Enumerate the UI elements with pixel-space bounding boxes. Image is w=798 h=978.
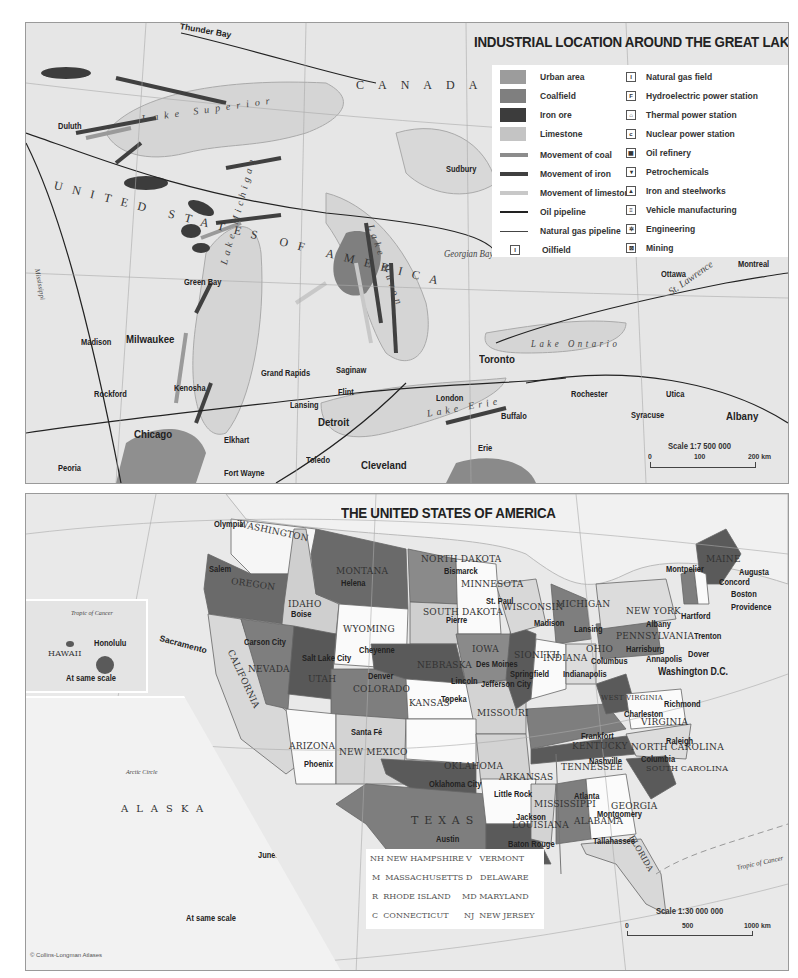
abbr-nh: NH NEW HAMPSHIRE [370, 854, 464, 863]
capital-indianapolis: Indianapolis [563, 669, 607, 679]
abbr-nj: NJ NEW JERSEY [464, 911, 535, 920]
usa-map: THE UNITED STATES OF AMERICA WASHINGTON … [25, 493, 789, 971]
city-syracuse: Syracuse [631, 410, 664, 420]
city-utica: Utica [666, 389, 684, 399]
state-oklahoma: OKLAHOMA [444, 761, 503, 771]
capital-augusta: Augusta [739, 567, 769, 577]
iron-ore-swatch [500, 108, 526, 122]
capital-olympia: Olympia [214, 519, 244, 529]
legend-hydroelectric: FHydroelectric power station [626, 91, 758, 101]
capital-jefferson-city: Jefferson City [481, 679, 531, 689]
capital-topeka: Topeka [441, 694, 467, 704]
capital-trenton: Trenton [694, 631, 721, 641]
state-ohio: OHIO [586, 644, 613, 654]
capital-salt-lake-city: Salt Lake City [302, 653, 351, 663]
city-erie: Erie [478, 443, 492, 453]
copyright-notice: © Collins-Longman Atlases [30, 952, 102, 958]
hydroelectric-icon: F [626, 91, 636, 101]
coalfield-swatch [500, 89, 526, 103]
legend-movement-limestone: Movement of limestone [500, 188, 634, 198]
state-indiana: INDIANA [543, 653, 587, 663]
oilfield-icon: I [510, 245, 520, 255]
thermal-power-icon: ⌂ [626, 110, 636, 120]
petrochemicals-icon: ▾ [626, 167, 636, 177]
capital-austin: Austin [436, 834, 459, 844]
legend-movement-coal: Movement of coal [500, 150, 612, 160]
legend-vehicle-manufacturing: ≡Vehicle manufacturing [626, 205, 737, 215]
arctic-circle-label: Arctic Circle [126, 768, 158, 776]
capital-denver: Denver [368, 671, 393, 681]
abbr-v: V VERMONT [466, 854, 524, 863]
oil-refinery-icon: ▦ [626, 148, 636, 158]
capital-carson-city: Carson City [244, 637, 286, 647]
mining-icon: ⊠ [626, 243, 636, 253]
gl-scale-tick-200: 200 km [748, 452, 771, 461]
legend-oil-pipeline: Oil pipeline [500, 207, 586, 217]
capital-springfield: Springfield [510, 669, 549, 679]
hawaii-label: HAWAII [48, 649, 82, 658]
state-north-dakota: NORTH DAKOTA [421, 554, 502, 564]
city-flint: Flint [338, 387, 354, 397]
city-kenosha: Kenosha [174, 383, 206, 393]
capital-harrisburg: Harrisburg [626, 644, 664, 654]
legend-oilfield: IOilfield [510, 245, 571, 255]
hawaii-island-small [66, 641, 74, 647]
gl-scale-label: Scale 1:7 500 000 [668, 441, 731, 451]
legend-engineering: ✲Engineering [626, 224, 695, 234]
usa-scale-tick-500: 500 [682, 921, 693, 930]
city-toronto: Toronto [479, 353, 515, 365]
limestone-arrow-icon [500, 191, 528, 195]
city-elkhart: Elkhart [224, 435, 249, 445]
city-saginaw: Saginaw [336, 365, 366, 375]
capital-st-paul: St. Paul [486, 596, 513, 606]
state-idaho: IDAHO [288, 599, 322, 609]
capital-salem: Salem [209, 564, 231, 574]
hawaii-scale-note: At same scale [66, 673, 116, 683]
abbr-d: D DELAWARE [466, 873, 529, 882]
map-legend: Urban area Coalfield Iron ore Limestone … [492, 65, 789, 257]
capital-montpelier: Montpelier [666, 564, 704, 574]
state-minnesota: MINNESOTA [461, 579, 523, 589]
state-abbreviation-key: NH NEW HAMPSHIRE V VERMONT M MASSACHUSET… [366, 849, 544, 929]
usa-scale-tick-0: 0 [625, 921, 629, 930]
hawaii-tropic-label: Tropic of Cancer [71, 609, 113, 617]
capital-hartford: Hartford [681, 611, 711, 621]
capital-cheyenne: Cheyenne [359, 645, 395, 655]
legend-thermal: ⌂Thermal power station [626, 110, 737, 120]
great-lakes-map: INDUSTRIAL LOCATION AROUND THE GREAT LAK… [25, 22, 789, 484]
label-lake-ontario: Lake Ontario [531, 338, 620, 349]
city-sudbury: Sudbury [446, 164, 476, 174]
hawaii-islands [96, 656, 114, 674]
city-madison: Madison [81, 337, 111, 347]
city-lansing: Lansing [290, 400, 319, 410]
capital-santa-fe: Santa Fé [351, 727, 382, 737]
vehicle-manufacturing-icon: ≡ [626, 205, 636, 215]
capital-little-rock: Little Rock [494, 789, 532, 799]
state-arizona: ARIZONA [289, 741, 335, 751]
hawaii-inset: Tropic of Cancer Honolulu HAWAII At same… [25, 599, 148, 693]
city-chicago: Chicago [134, 428, 172, 440]
coal-arrow-icon [500, 153, 528, 157]
capital-bismarck: Bismarck [444, 566, 478, 576]
capital-dover: Dover [688, 649, 709, 659]
capital-frankfort: Frankfort [581, 731, 614, 741]
state-montana: MONTANA [336, 566, 388, 576]
city-cleveland: Cleveland [361, 459, 407, 471]
steelworks-icon: ▲ [626, 186, 636, 196]
oil-pipeline-icon [500, 211, 528, 213]
city-london: London [436, 393, 463, 403]
legend-urban-area: Urban area [500, 70, 584, 84]
city-grand-rapids: Grand Rapids [261, 368, 310, 378]
iron-arrow-icon [500, 172, 528, 176]
city-milwaukee: Milwaukee [126, 333, 174, 345]
natural-gas-field-icon: I [626, 72, 636, 82]
state-pennsylvania: PENNSYLVANIA [616, 631, 694, 641]
gl-scale-tick-0: 0 [648, 452, 652, 461]
great-lakes-title: INDUSTRIAL LOCATION AROUND THE GREAT LAK… [474, 33, 789, 51]
engineering-icon: ✲ [626, 224, 636, 234]
capital-raleigh: Raleigh [666, 736, 693, 746]
state-maine: MAINE [706, 554, 741, 564]
city-detroit: Detroit [318, 416, 349, 428]
abbr-c: C CONNECTICUT [372, 911, 449, 920]
state-missouri: MISSOURI [477, 708, 529, 718]
